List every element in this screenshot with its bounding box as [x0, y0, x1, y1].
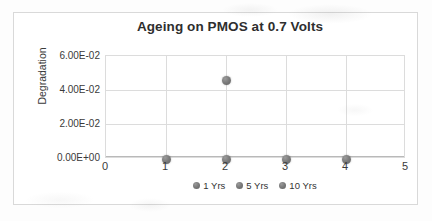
plot-area [105, 55, 405, 158]
y-axis-tick-labels: 6.00E-02 4.00E-02 2.00E-02 0.00E+00 [28, 0, 100, 221]
y-tick-label: 6.00E-02 [30, 50, 100, 61]
legend-item-10-yrs[interactable]: 10 Yrs [279, 180, 316, 191]
legend-label: 5 Yrs [246, 180, 268, 191]
x-tick-label: 4 [333, 160, 357, 172]
legend-item-5-yrs[interactable]: 5 Yrs [236, 180, 268, 191]
y-tick-label: 4.00E-02 [30, 84, 100, 95]
x-tick-label: 3 [273, 160, 297, 172]
x-tick-label: 1 [153, 160, 177, 172]
data-point-marker [222, 76, 231, 85]
y-tick-label: 2.00E-02 [30, 118, 100, 129]
gridline-vertical [346, 56, 347, 157]
legend-label: 1 Yrs [203, 180, 225, 191]
x-tick-label: 0 [93, 160, 117, 172]
gridline-horizontal [106, 124, 404, 125]
x-axis-line [106, 156, 404, 157]
chart-legend: 1 Yrs 5 Yrs 10 Yrs [105, 180, 405, 191]
legend-marker-icon [236, 182, 243, 189]
gridline-horizontal [106, 90, 404, 91]
x-tick-label: 5 [393, 160, 417, 172]
gridline-vertical [226, 56, 227, 157]
legend-marker-icon [279, 182, 286, 189]
y-tick-label: 0.00E+00 [30, 152, 100, 163]
chart-title: Ageing on PMOS at 0.7 Volts [105, 19, 355, 34]
gridline-vertical [286, 56, 287, 157]
gridline-vertical [166, 56, 167, 157]
x-tick-label: 2 [213, 160, 237, 172]
legend-label: 10 Yrs [289, 180, 316, 191]
legend-marker-icon [193, 182, 200, 189]
legend-item-1-yrs[interactable]: 1 Yrs [193, 180, 225, 191]
